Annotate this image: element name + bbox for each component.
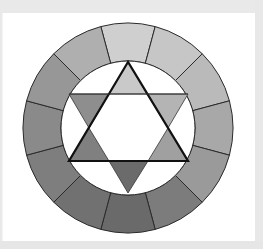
color-wheel-diagram [0,0,263,249]
